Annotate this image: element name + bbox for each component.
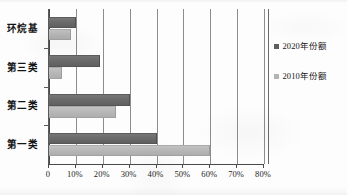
y-axis-label-disanlei: 第三类: [0, 61, 45, 72]
x-tick-30: [129, 164, 130, 168]
x-tick-70: [236, 164, 237, 168]
x-tick-label-30: 30%: [115, 169, 143, 180]
x-axis-ticks: [48, 164, 263, 168]
x-tick-label-50: 50%: [168, 169, 196, 180]
bar-2020-row-1: [49, 55, 100, 67]
y-axis-label-diyilei: 第一类: [0, 139, 45, 150]
y-tick-2: [44, 87, 49, 88]
x-tick-label-80: 80%: [249, 169, 277, 180]
chart-legend: 2020年份额 2010年份额: [268, 9, 347, 164]
bar-2020-row-2: [49, 94, 130, 106]
x-tick-label-70: 70%: [222, 169, 250, 180]
x-tick-20: [102, 164, 103, 168]
x-tick-40: [156, 164, 157, 168]
bar-2020-row-3: [49, 133, 157, 145]
legend-entry-2020: 2020年份额: [274, 41, 327, 51]
bar-2010-row-1: [49, 67, 62, 79]
x-tick-label-10: 10%: [61, 169, 89, 180]
bar-2020-row-0: [49, 17, 76, 29]
x-tick-10: [75, 164, 76, 168]
x-tick-label-40: 40%: [142, 169, 170, 180]
bar-series-group: [49, 9, 263, 164]
x-tick-0: [48, 164, 49, 168]
x-tick-label-20: 20%: [88, 169, 116, 180]
scan-edge-bottom: [0, 187, 347, 195]
y-axis-ticks: [44, 9, 49, 164]
x-tick-80: [263, 164, 264, 168]
legend-swatch-2010-icon: [274, 74, 279, 79]
y-tick-3: [44, 125, 49, 126]
bar-chart-figure: 环烷基 第三类 第二类 第一类 010%20%30%40%50%60%70%80…: [0, 0, 347, 195]
x-tick-60: [209, 164, 210, 168]
bar-2010-row-0: [49, 29, 71, 41]
legend-label-2010: 2010年份额: [283, 71, 328, 81]
scan-edge-top: [0, 0, 347, 3]
bar-2010-row-3: [49, 145, 210, 157]
x-tick-label-0: 0: [34, 169, 62, 180]
x-tick-label-60: 60%: [195, 169, 223, 180]
legend-label-2020: 2020年份额: [283, 41, 328, 51]
x-tick-50: [182, 164, 183, 168]
gridline-80: [264, 9, 265, 164]
bar-2010-row-2: [49, 106, 116, 118]
y-axis-label-huanwanji: 环烷基: [0, 23, 45, 34]
legend-swatch-2020-icon: [274, 44, 279, 49]
y-tick-1: [44, 48, 49, 49]
y-axis-label-dierlei: 第二类: [0, 100, 45, 111]
plot-area: [48, 9, 263, 164]
y-axis-category-labels: 环烷基 第三类 第二类 第一类: [0, 8, 47, 163]
x-axis-tick-labels: 010%20%30%40%50%60%70%80%: [0, 169, 347, 183]
legend-entry-2010: 2010年份额: [274, 71, 327, 81]
